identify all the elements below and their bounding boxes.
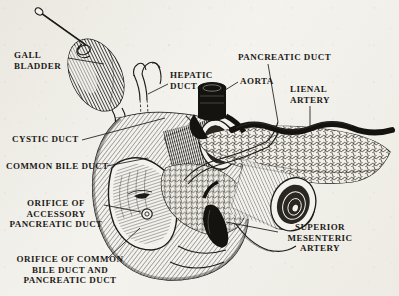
leader-pancreatic-duct (268, 64, 278, 122)
label-aorta: AORTA (240, 76, 274, 87)
orifice-of-accessory-pancreatic-duct (142, 209, 152, 219)
label-pancreatic-duct: PANCREATIC DUCT (238, 52, 331, 63)
label-common-bile-duct: COMMON BILE DUCT (6, 161, 109, 172)
label-hepatic-duct: HEPATIC DUCT (170, 70, 213, 91)
gall-bladder-body (55, 26, 140, 125)
structure-hepatic-duct (134, 62, 162, 100)
label-orifice-common-bile-duct: ORIFICE OF COMMON BILE DUCT AND PANCREAT… (2, 254, 138, 286)
leader-hepatic-duct (148, 84, 168, 94)
label-gall-bladder: GALL BLADDER (14, 50, 61, 71)
label-orifice-accessory-pancreatic-duct: ORIFICE OF ACCESSORY PANCREATIC DUCT (8, 198, 104, 230)
label-lienal-artery: LIENAL ARTERY (290, 84, 330, 105)
anatomical-plate: GALL BLADDER HEPATIC DUCT PANCREATIC DUC… (0, 0, 399, 296)
label-cystic-duct: CYSTIC DUCT (12, 134, 79, 145)
label-superior-mesenteric-artery: SUPERIOR MESENTERIC ARTERY (276, 222, 364, 254)
